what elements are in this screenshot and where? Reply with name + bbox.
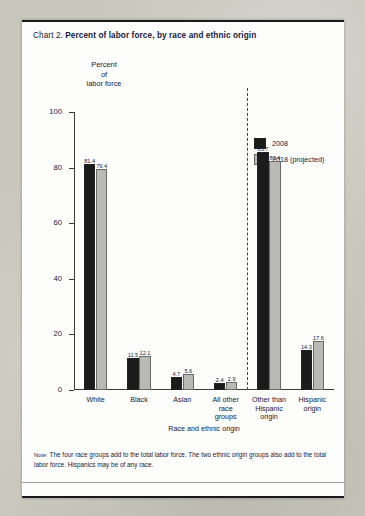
y-tick-label-60: 60 — [54, 218, 62, 227]
bar-value-label-4-1: 82.4 — [270, 155, 281, 161]
x-category-label-3: All otherracegroups — [204, 396, 247, 422]
note-text: The four race groups add to the total la… — [34, 451, 326, 468]
x-category-label-3-line-2: groups — [204, 413, 247, 422]
bar-4-0: 85.7 — [257, 152, 269, 390]
x-category-label-2-line-0: Asian — [161, 396, 204, 405]
chart-number: Chart 2. — [33, 31, 63, 40]
bar-2-1: 5.6 — [183, 374, 195, 390]
bar-1-0: 11.5 — [127, 358, 139, 390]
note-divider-rule — [22, 482, 344, 483]
bar-5-0: 14.3 — [301, 350, 313, 390]
x-category-label-2: Asian — [161, 396, 204, 405]
y-axis-title-line-2: labor force — [66, 79, 142, 89]
y-axis-title-line-0: Percent — [66, 60, 142, 70]
bar-value-label-3-0: 2.4 — [216, 377, 224, 383]
y-tick-100: 100 — [69, 112, 74, 113]
plot-canvas: 020406080100 81.479.4White11.512.1Black4… — [74, 112, 334, 390]
x-category-label-0: White — [74, 396, 117, 405]
y-tick-60: 60 — [69, 223, 74, 224]
x-category-label-1: Black — [117, 396, 160, 405]
y-tick-label-80: 80 — [54, 163, 62, 172]
group-divider-0 — [247, 88, 248, 390]
x-category-label-5-line-1: origin — [291, 405, 334, 414]
bar-value-label-2-0: 4.7 — [172, 371, 180, 377]
bar-value-label-5-0: 14.3 — [301, 344, 312, 350]
x-category-label-0-line-0: White — [74, 396, 117, 405]
bar-3-1: 2.9 — [226, 382, 238, 390]
y-tick-label-20: 20 — [54, 329, 62, 338]
y-tick-label-40: 40 — [54, 274, 62, 283]
chart-card: Chart 2. Percent of labor force, by race… — [22, 20, 344, 498]
bar-1-1: 12.1 — [139, 356, 151, 390]
x-category-label-5: Hispanicorigin — [291, 396, 334, 413]
x-category-label-1-line-0: Black — [117, 396, 160, 405]
bar-value-label-1-0: 11.5 — [128, 352, 138, 358]
bar-value-label-0-0: 81.4 — [84, 158, 95, 164]
note-tag: Note: — [34, 452, 48, 458]
bar-value-label-4-0: 85.7 — [258, 146, 269, 152]
y-tick-20: 20 — [69, 334, 74, 335]
y-axis-title-line-1: of — [66, 70, 142, 80]
y-axis-title: Percentoflabor force — [66, 60, 142, 89]
bar-value-label-5-1: 17.6 — [313, 335, 324, 341]
x-category-label-4-line-2: origin — [247, 413, 290, 422]
plot-area: Percentoflabor force 20082018 (projected… — [22, 52, 344, 442]
bar-0-0: 81.4 — [84, 164, 96, 390]
bar-value-label-1-1: 12.1 — [140, 350, 151, 356]
y-tick-label-0: 0 — [58, 385, 62, 394]
y-axis-line — [74, 112, 75, 390]
y-tick-0: 0 — [69, 390, 74, 391]
bar-3-0: 2.4 — [214, 383, 226, 390]
bar-0-1: 79.4 — [96, 169, 108, 390]
bar-value-label-2-1: 5.6 — [184, 368, 192, 374]
y-tick-label-100: 100 — [49, 107, 62, 116]
bar-value-label-3-1: 2.9 — [228, 376, 236, 382]
y-tick-40: 40 — [69, 279, 74, 280]
bar-5-1: 17.6 — [313, 341, 325, 390]
bar-4-1: 82.4 — [269, 161, 281, 390]
chart-title: Chart 2. Percent of labor force, by race… — [22, 22, 344, 40]
x-category-label-4: Other thanHispanicorigin — [247, 396, 290, 422]
chart-title-text: Percent of labor force, by race and ethn… — [65, 31, 256, 40]
chart-note: Note: The four race groups add to the to… — [34, 450, 332, 469]
bar-2-0: 4.7 — [171, 377, 183, 390]
y-tick-80: 80 — [69, 168, 74, 169]
x-axis-line — [74, 389, 334, 390]
x-axis-title: Race and ethnic origin — [74, 424, 334, 433]
bar-value-label-0-1: 79.4 — [96, 163, 107, 169]
